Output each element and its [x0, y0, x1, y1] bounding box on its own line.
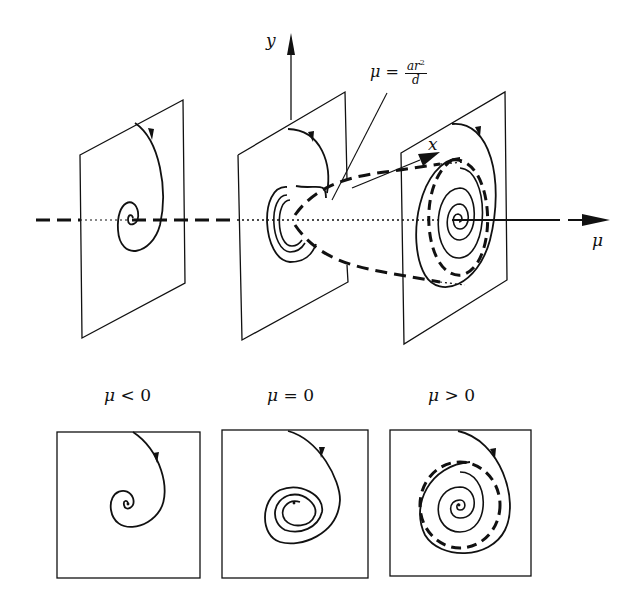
- flow-arrow-icon: [308, 131, 314, 142]
- annotation-numerator: ar2: [405, 56, 427, 74]
- panel-bottom-mu-positive: [390, 430, 531, 576]
- mu-axis: [36, 214, 610, 226]
- plane-mu-zero: [238, 92, 348, 340]
- hopf-bifurcation-diagram: [0, 0, 643, 609]
- x-axis-label: x: [428, 134, 438, 154]
- y-axis-arrow-icon: [287, 33, 295, 55]
- annotation-fraction: ar2 d: [405, 56, 427, 87]
- caption-mu-positive: μ > 0: [428, 385, 475, 405]
- panel-bottom-mu-negative: [57, 432, 200, 578]
- annotation-pointer: [332, 93, 387, 200]
- plane-mu-positive: [401, 92, 507, 344]
- caption-mu-zero: μ = 0: [267, 385, 314, 405]
- mu-axis-label: μ: [592, 230, 603, 250]
- caption-mu-negative: μ < 0: [104, 385, 151, 405]
- panel-bottom-mu-zero: [222, 430, 368, 578]
- annotation-lhs: μ =: [370, 62, 399, 81]
- y-axis: [287, 33, 295, 120]
- y-axis-label: y: [266, 30, 276, 50]
- annotation-denominator: d: [412, 74, 420, 87]
- x-axis: [352, 152, 440, 188]
- mu-axis-arrow-icon: [582, 214, 610, 226]
- critical-parameter-annotation: μ = ar2 d: [370, 56, 427, 87]
